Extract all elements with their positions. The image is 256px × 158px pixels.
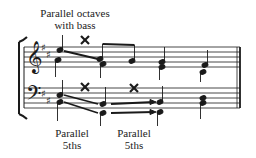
note — [199, 95, 206, 101]
bass-clef-icon: 𝄢 — [26, 82, 41, 110]
svg-text:♯: ♯ — [46, 49, 51, 60]
svg-text:♯: ♯ — [46, 95, 51, 106]
x-mark-icon — [81, 83, 89, 91]
grand-staff: 𝄞 𝄢 ♯ ♯ ♯ ♯ — [0, 0, 256, 158]
x-mark-icon — [81, 36, 89, 44]
